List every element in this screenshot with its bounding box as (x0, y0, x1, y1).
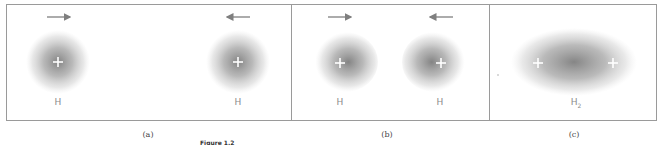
electron-cloud-left (312, 32, 378, 92)
caption-c: (c) (569, 130, 580, 139)
molecule-label-subscript: 2 (577, 102, 581, 109)
panel-b (312, 17, 468, 92)
caption-b: (b) (381, 130, 392, 139)
molecular-orbital-cloud (511, 28, 637, 96)
panel-c (497, 28, 637, 96)
caption-a: (a) (142, 130, 153, 139)
electron-cloud-right (402, 32, 468, 92)
stray-dot (497, 74, 499, 76)
molecule-label: H2 (571, 97, 582, 109)
panel-a (26, 17, 270, 94)
atom-label: H (235, 97, 242, 107)
molecule-label-main: H (571, 97, 578, 107)
orbital-diagram (0, 0, 660, 145)
figure-label: Figure 1.2 (200, 139, 234, 145)
atom-label: H (337, 97, 344, 107)
atom-label: H (55, 97, 62, 107)
atom-label: H (437, 97, 444, 107)
